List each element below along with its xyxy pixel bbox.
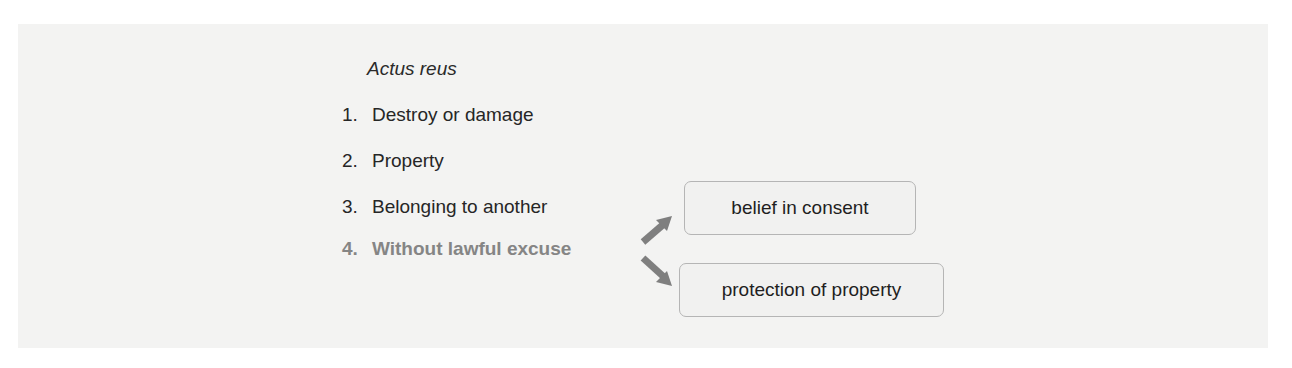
branch-arrows <box>0 0 1292 368</box>
branch-label: belief in consent <box>731 197 868 219</box>
arrow-down-right-icon <box>643 258 672 286</box>
branch-belief-in-consent: belief in consent <box>684 181 916 235</box>
branch-label: protection of property <box>722 279 902 301</box>
arrow-up-right-icon <box>643 216 672 242</box>
branch-protection-of-property: protection of property <box>679 263 944 317</box>
